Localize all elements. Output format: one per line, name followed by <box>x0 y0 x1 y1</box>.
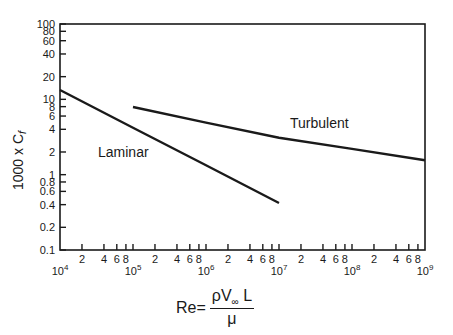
y-tick-label: 4 <box>49 123 55 135</box>
x-minor-tick-label: 2 <box>298 253 304 265</box>
turbulent-label: Turbulent <box>290 115 349 131</box>
x-minor-tick-label: 8 <box>342 253 348 265</box>
x-minor-tick-label: 4 <box>320 253 326 265</box>
x-minor-tick-label: 8 <box>123 253 129 265</box>
fraction-numerator: ρV∞ L <box>210 287 254 309</box>
y-tick-label: 40 <box>43 48 55 60</box>
y-tick-label: 0.4 <box>40 199 55 211</box>
y-tick-label: 20 <box>43 71 55 83</box>
fraction-denominator: μ <box>227 309 236 328</box>
x-major-tick-label: 105 <box>125 263 142 277</box>
x-major-tick-label: 104 <box>52 263 69 277</box>
x-minor-tick-label: 2 <box>79 253 85 265</box>
x-axis-title: Re= ρV∞ L μ <box>176 287 254 328</box>
x-minor-tick-label: 6 <box>114 253 120 265</box>
x-minor-tick-label: 4 <box>101 253 107 265</box>
x-minor-tick-label: 6 <box>260 253 266 265</box>
x-minor-tick-label: 4 <box>393 253 399 265</box>
x-minor-tick-label: 8 <box>415 253 421 265</box>
plot-frame <box>60 24 425 250</box>
x-axis-ticks: 10424681052468106246810724681082468109 <box>52 244 434 277</box>
x-minor-tick-label: 6 <box>406 253 412 265</box>
x-major-tick-label: 108 <box>344 263 361 277</box>
x-minor-tick-label: 2 <box>152 253 158 265</box>
x-minor-tick-label: 4 <box>174 253 180 265</box>
x-minor-tick-label: 2 <box>225 253 231 265</box>
laminar-curve <box>60 90 279 203</box>
x-major-tick-label: 109 <box>417 263 434 277</box>
turbulent-curve <box>133 107 425 160</box>
y-tick-label: 0.1 <box>40 244 55 256</box>
x-axis-title-prefix: Re= <box>176 299 206 317</box>
x-minor-tick-label: 6 <box>187 253 193 265</box>
y-axis-ticks: 0.10.20.40.60.8124681020406080100 <box>37 18 66 256</box>
x-minor-tick-label: 2 <box>371 253 377 265</box>
y-tick-label: 0.2 <box>40 221 55 233</box>
y-tick-label: 10 <box>43 93 55 105</box>
y-tick-label: 2 <box>49 146 55 158</box>
y-tick-label: 100 <box>37 18 55 30</box>
laminar-label: Laminar <box>98 144 149 160</box>
x-minor-tick-label: 6 <box>333 253 339 265</box>
x-minor-tick-label: 4 <box>247 253 253 265</box>
chart-canvas: 0.10.20.40.60.8124681020406080100 104246… <box>0 0 453 335</box>
x-minor-tick-label: 8 <box>269 253 275 265</box>
y-axis-title: 1000 x Cf <box>10 130 28 190</box>
reynolds-fraction: ρV∞ L μ <box>210 287 254 328</box>
x-major-tick-label: 106 <box>198 263 215 277</box>
x-minor-tick-label: 8 <box>196 253 202 265</box>
x-major-tick-label: 107 <box>271 263 288 277</box>
y-tick-label: 1 <box>49 169 55 181</box>
